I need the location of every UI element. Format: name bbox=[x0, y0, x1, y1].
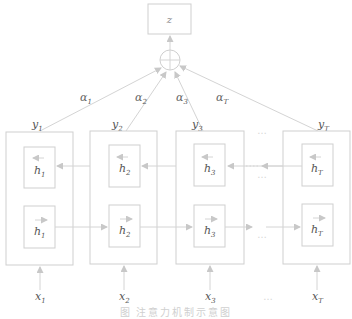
output-node: z bbox=[148, 4, 191, 34]
alpha-label-1: α1 bbox=[80, 91, 92, 106]
figure-caption: 图 注意力机制示意图 bbox=[0, 304, 352, 319]
rnn-cell-T: yT hT hT xT bbox=[283, 118, 350, 305]
svg-text:α3: α3 bbox=[176, 91, 188, 106]
x-label-1: x1 bbox=[35, 290, 46, 305]
rnn-cell-3: y3 h3 h3 x3 bbox=[176, 118, 244, 305]
svg-text:α1: α1 bbox=[80, 91, 92, 106]
x-label-T: xT bbox=[312, 290, 324, 305]
svg-text:α2: α2 bbox=[135, 91, 147, 106]
ellipsis-backward: … bbox=[257, 169, 267, 180]
x-label-3: x3 bbox=[205, 290, 216, 305]
output-label: z bbox=[166, 14, 173, 25]
ellipsis-forward: … bbox=[257, 229, 267, 240]
ellipsis-y: … bbox=[257, 125, 267, 136]
rnn-cell-2: y2 h2 h2 x2 bbox=[90, 118, 157, 305]
x-label-2: x2 bbox=[119, 290, 130, 305]
alpha-label-2: α2 bbox=[135, 91, 147, 106]
svg-text:αT: αT bbox=[216, 91, 229, 106]
alpha-label-3: α3 bbox=[176, 91, 188, 106]
alpha-label-T: αT bbox=[216, 91, 229, 106]
y-label-1: y1 bbox=[31, 118, 43, 133]
attention-line-T bbox=[180, 66, 318, 131]
sum-node bbox=[160, 50, 180, 70]
ellipsis-x: … bbox=[263, 291, 273, 302]
rnn-cell-1: y1 h1 h1 x1 bbox=[6, 118, 73, 305]
